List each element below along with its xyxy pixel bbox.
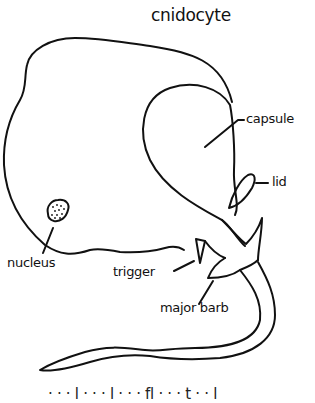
diagram-title: cnidocyte: [151, 5, 231, 25]
major-barb-shape: [208, 258, 258, 278]
label-lid: lid: [272, 174, 287, 189]
caption-partial: · · · l · · · l · · · fl · · · t · · l: [48, 385, 217, 403]
label-trigger: trigger: [113, 264, 155, 279]
lid-shape: [229, 174, 255, 208]
trigger-shape: [196, 239, 205, 263]
nucleus-shape: [48, 200, 69, 221]
label-nucleus: nucleus: [7, 255, 55, 270]
capsule-shape: [143, 85, 262, 260]
thread-shape: [40, 262, 275, 371]
label-major-barb: major barb: [160, 300, 229, 315]
label-capsule: capsule: [246, 111, 294, 126]
trigger-leader: [174, 261, 194, 271]
capsule-leader: [205, 120, 244, 147]
cell-membrane: [4, 38, 232, 254]
